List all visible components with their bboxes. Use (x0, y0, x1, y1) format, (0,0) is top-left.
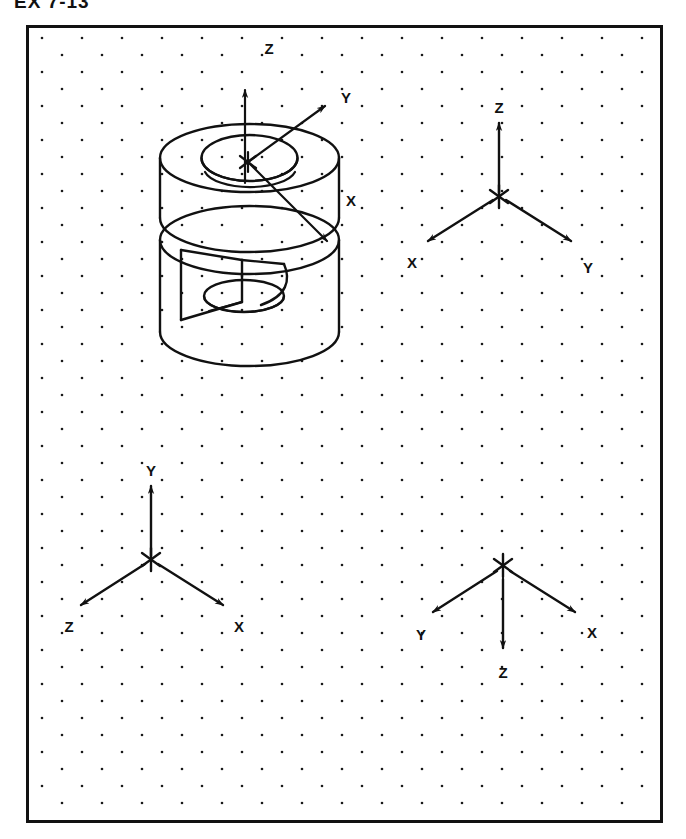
axes-c-y-arrow (433, 571, 497, 612)
axes-b-origin-asterisk (142, 548, 160, 571)
axes-b-x-arrow (158, 564, 223, 605)
exercise-number: EX 7-13 (14, 0, 214, 13)
drawing-artwork: Z Y X Z X Y (29, 28, 660, 820)
drawing-page: EX 7-13 (0, 0, 686, 839)
axes-a-label-y: Y (583, 259, 593, 276)
axes-c-x-arrow (510, 571, 575, 612)
upper-cylinder-bottom-arc (160, 218, 339, 252)
pictorial-label-x: X (346, 192, 356, 209)
axes-a-y-arrow (506, 200, 571, 241)
lower-cylinder-top-ellipse (160, 206, 339, 274)
axes-a-label-x: X (407, 254, 417, 271)
figure-pictorial-object (160, 90, 339, 366)
axes-c-label-z: Z (498, 664, 507, 681)
axes-c-label-x: X (587, 624, 597, 641)
axes-b-label-y: Y (146, 462, 156, 479)
axes-a-origin-asterisk (490, 185, 508, 208)
lower-cylinder-bottom-arc (160, 332, 339, 366)
figure-axes-top-right (428, 123, 571, 241)
figure-axes-bottom-right (433, 554, 575, 648)
pictorial-label-y: Y (341, 89, 351, 106)
drawing-frame-inner: Z Y X Z X Y (29, 28, 660, 820)
axes-c-origin-asterisk (494, 554, 512, 577)
drawing-frame: Z Y X Z X Y (26, 25, 663, 823)
axes-b-label-z: Z (64, 618, 73, 635)
axes-b-label-x: X (234, 618, 244, 635)
pictorial-label-z: Z (264, 40, 273, 57)
axes-c-label-y: Y (416, 626, 426, 643)
pictorial-axis-x-arrow (248, 162, 327, 241)
axes-a-x-arrow (428, 200, 493, 241)
figure-axes-bottom-left (81, 486, 223, 605)
axes-b-z-arrow (81, 564, 145, 605)
slot-top-back-edge (242, 260, 284, 264)
axes-a-label-z: Z (494, 99, 503, 116)
